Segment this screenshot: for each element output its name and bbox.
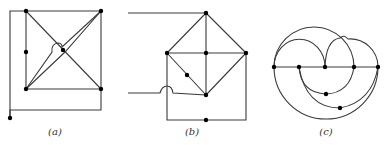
caption-c: (c) [311,126,341,137]
panel-a-graph [8,9,103,120]
panel-b-graph [128,11,248,122]
graph-drawings [0,0,384,145]
caption-a: (a) [40,126,70,137]
caption-b: (b) [177,126,207,137]
panel-c-graph [272,27,380,119]
